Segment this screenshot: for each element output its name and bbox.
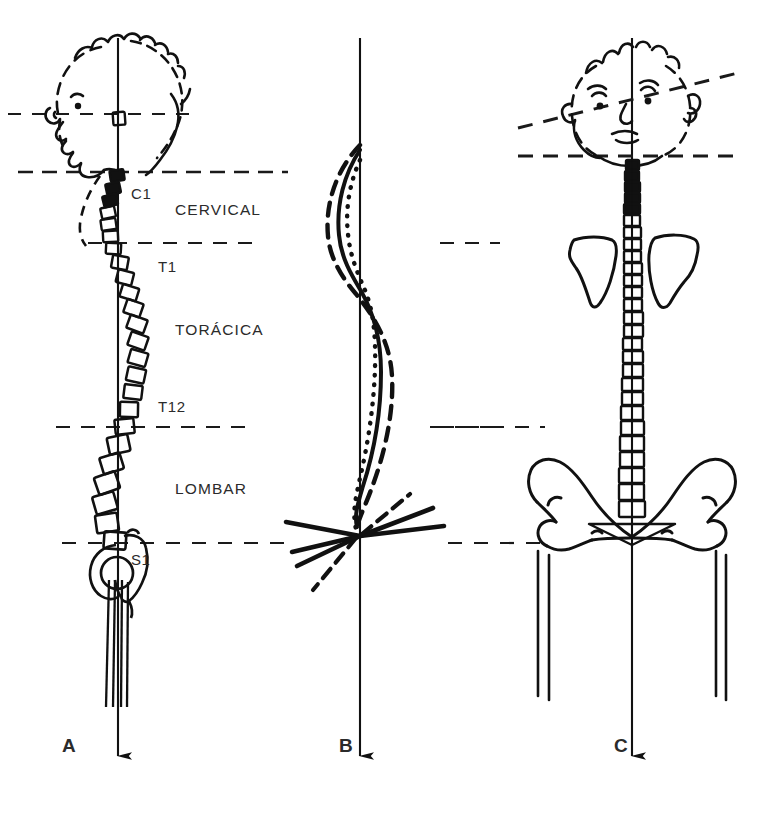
panel-a-label-lombar: LOMBAR [175,480,247,497]
panel-a-letter: A [62,735,76,756]
spinal-alignment-figure: C1 T1 T12 S1 CERVICAL TORÁCICA LOMBAR A [0,0,761,820]
panel-a-label-toracica: TORÁCICA [175,321,264,338]
figure-canvas: C1 T1 T12 S1 CERVICAL TORÁCICA LOMBAR A [0,0,761,820]
panel-a-label-s1: S1 [131,551,151,568]
panel-a-label-c1: C1 [131,185,151,202]
panel-a-label-t12: T12 [158,398,186,415]
panel-a-label-cervical: CERVICAL [175,201,261,218]
panel-c-letter: C [614,735,628,756]
panel-b-letter: B [339,735,353,756]
panel-a-label-t1: T1 [158,258,177,275]
